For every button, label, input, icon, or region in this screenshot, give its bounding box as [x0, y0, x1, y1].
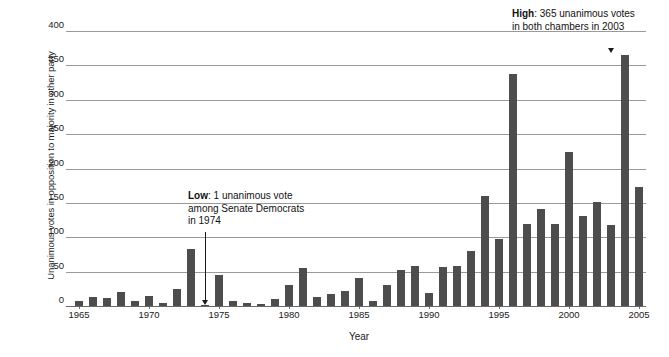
bar [383, 285, 392, 306]
annotation-low-arrow-head-icon [202, 300, 208, 305]
bar [425, 293, 434, 306]
x-axis-tick-label: 2005 [619, 309, 659, 320]
bar [145, 296, 154, 306]
bar [635, 187, 644, 306]
y-axis-tick-label: 350 [22, 53, 64, 64]
bar [621, 55, 630, 306]
bar-chart-figure: Unanimous votes in opposition to majorit… [0, 0, 669, 357]
x-axis-tick-label: 1970 [129, 309, 169, 320]
bar [299, 268, 308, 306]
gridline [72, 203, 646, 204]
bar [565, 152, 574, 306]
annotation-low: Low: 1 unanimous vote among Senate Democ… [188, 190, 310, 228]
bar [397, 270, 406, 306]
x-axis-tick-label: 1995 [479, 309, 519, 320]
x-axis-tick-label: 1975 [199, 309, 239, 320]
bar [411, 266, 420, 306]
y-axis-tick-label: 150 [22, 191, 64, 202]
bar [89, 297, 98, 306]
annotation-low-arrow-line [205, 232, 206, 300]
bar [439, 267, 448, 306]
bar [313, 297, 322, 306]
bar [243, 303, 252, 306]
x-axis-title: Year [72, 331, 646, 342]
gridline [72, 65, 646, 66]
x-axis-tick-label: 1985 [339, 309, 379, 320]
gridline [72, 237, 646, 238]
y-axis-tick-label: 100 [22, 225, 64, 236]
y-axis-tick-mark [66, 306, 72, 307]
bar [369, 301, 378, 306]
y-axis-tick-mark [66, 65, 72, 66]
bar [257, 304, 266, 306]
y-axis-tick-mark [66, 203, 72, 204]
annotation-high-arrow-head-icon [608, 48, 614, 53]
bar [327, 294, 336, 306]
y-axis-tick-mark [66, 272, 72, 273]
gridline [72, 134, 646, 135]
y-axis-tick-label: 0 [22, 294, 64, 305]
annotation-low-bold: Low [188, 190, 208, 201]
y-axis-tick-mark [66, 100, 72, 101]
bar [523, 224, 532, 306]
bar [467, 251, 476, 306]
y-axis-tick-label: 300 [22, 88, 64, 99]
annotation-high-bold: High [512, 8, 534, 19]
x-axis-tick-label: 1965 [59, 309, 99, 320]
bar [131, 301, 140, 307]
bar [537, 209, 546, 306]
bar [509, 74, 518, 306]
x-axis-tick-label: 1980 [269, 309, 309, 320]
bar [271, 299, 280, 306]
gridline [72, 272, 646, 273]
bar [453, 266, 462, 306]
bar [481, 196, 490, 306]
y-axis-tick-label: 250 [22, 122, 64, 133]
annotation-high: High: 365 unanimous votes in both chambe… [512, 8, 644, 33]
y-axis-tick-label: 200 [22, 157, 64, 168]
bar [187, 249, 196, 306]
y-axis-tick-mark [66, 31, 72, 32]
bar [341, 291, 350, 306]
bar [551, 224, 560, 307]
bar [593, 202, 602, 307]
bar [229, 301, 238, 306]
bar [215, 275, 224, 306]
y-axis-tick-mark [66, 237, 72, 238]
y-axis-tick-label: 50 [22, 260, 64, 271]
bar [159, 303, 168, 306]
gridline [72, 169, 646, 170]
x-axis-tick-label: 2000 [549, 309, 589, 320]
y-axis-tick-mark [66, 134, 72, 135]
bar [607, 225, 616, 306]
bar [103, 298, 112, 306]
y-axis-tick-label: 400 [22, 19, 64, 30]
plot-area [72, 31, 646, 306]
gridline [72, 100, 646, 101]
bar [579, 216, 588, 306]
bar [355, 278, 364, 306]
bar [117, 292, 126, 306]
bar [495, 239, 504, 306]
bar [285, 285, 294, 306]
bar [173, 289, 182, 306]
x-axis-tick-label: 1990 [409, 309, 449, 320]
y-axis-tick-mark [66, 169, 72, 170]
